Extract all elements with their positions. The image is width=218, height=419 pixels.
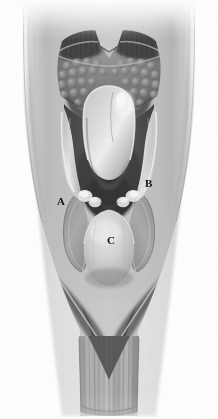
paper-grain	[0, 0, 218, 419]
anatomical-figure: A B C	[0, 0, 218, 419]
larynx-illustration-svg	[0, 0, 218, 419]
